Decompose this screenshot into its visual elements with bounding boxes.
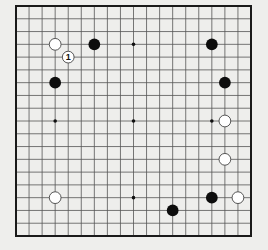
star-point	[132, 119, 136, 123]
white-stone	[232, 192, 244, 204]
white-stone	[219, 115, 231, 127]
black-stone	[206, 38, 218, 50]
star-point	[53, 119, 57, 123]
star-point	[210, 119, 214, 123]
black-stone	[167, 205, 179, 217]
black-stone	[88, 38, 100, 50]
black-stone	[49, 77, 61, 89]
go-board: 1	[0, 0, 268, 250]
move-number-label: 1	[66, 52, 71, 62]
star-point	[132, 43, 136, 47]
black-stone	[206, 192, 218, 204]
white-stone	[49, 38, 61, 50]
white-stone	[219, 153, 231, 165]
black-stone	[219, 77, 231, 89]
white-stone	[49, 192, 61, 204]
star-point	[132, 196, 136, 200]
white-stone: 1	[62, 51, 74, 63]
